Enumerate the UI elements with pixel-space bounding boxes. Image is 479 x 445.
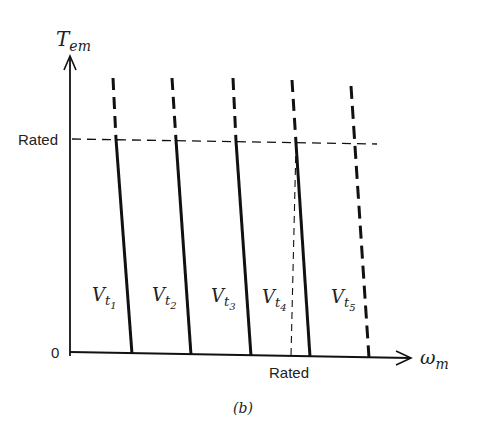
curve-vt2-dashed: [172, 78, 176, 140]
origin-label: 0: [51, 344, 59, 361]
curve-vt4-solid: [296, 143, 310, 357]
label-vt4: Vt4: [262, 286, 287, 313]
rated-speed-label: Rated: [269, 364, 309, 381]
rated-torque-label: Rated: [18, 131, 58, 148]
curve-vt3-solid: [236, 141, 251, 356]
label-vt1: Vt1: [92, 284, 117, 311]
y-axis-label: Tem: [56, 27, 91, 54]
figure-caption: (b): [233, 400, 253, 416]
x-axis-label: ωm: [420, 346, 449, 372]
label-vt3: Vt3: [211, 285, 236, 312]
curve-vt5-dashed: [351, 86, 369, 358]
rated-speed-line: [291, 144, 296, 356]
x-axis: [70, 352, 410, 358]
label-vt5: Vt5: [331, 286, 356, 313]
label-vt2: Vt2: [152, 284, 177, 311]
curve-vt2-solid: [176, 140, 191, 355]
torque-speed-diagram: Tem ωm Rated 0 Rated Vt1 Vt2 Vt3 Vt4 Vt5…: [0, 0, 479, 445]
curve-vt3-dashed: [233, 78, 236, 141]
curve-vt4-dashed: [292, 80, 296, 143]
curve-vt1-solid: [116, 139, 132, 354]
curve-vt1-dashed: [113, 78, 116, 139]
